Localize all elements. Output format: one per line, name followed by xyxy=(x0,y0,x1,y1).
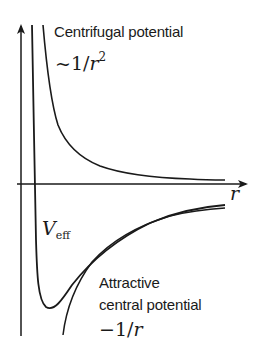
effective-potential-diagram: Centrifugal potential ~1/r2 r Veff Attra… xyxy=(0,0,257,364)
attractive-label-line1: Attractive xyxy=(99,274,160,291)
x-axis-label-var: r xyxy=(230,182,239,204)
veff-label-main: V xyxy=(42,217,56,239)
x-axis-label: r xyxy=(230,182,239,204)
centrifugal-formula-exp: 2 xyxy=(99,50,107,64)
attractive-formula: −1/r xyxy=(99,318,143,340)
centrifugal-formula-prefix: ~1/ xyxy=(55,52,89,74)
centrifugal-potential-curve xyxy=(43,25,225,180)
attractive-label-line2: central potential xyxy=(99,296,202,313)
attractive-potential-curve xyxy=(63,208,225,335)
attractive-formula-var: r xyxy=(133,318,142,340)
veff-label-sub: eff xyxy=(56,229,70,242)
centrifugal-formula: ~1/r2 xyxy=(55,50,106,74)
veff-label: Veff xyxy=(42,217,70,242)
centrifugal-label: Centrifugal potential xyxy=(54,23,183,40)
centrifugal-formula-var: r xyxy=(89,52,98,74)
attractive-formula-prefix: −1/ xyxy=(99,318,133,340)
